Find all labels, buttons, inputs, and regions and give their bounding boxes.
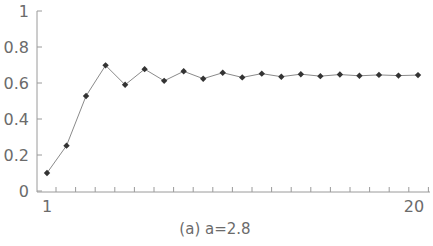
data-point-marker — [317, 73, 323, 79]
data-point-marker — [220, 70, 226, 76]
data-point-marker — [63, 142, 69, 148]
x-tick-label: 1 — [42, 197, 52, 216]
y-tick-label: 0.4 — [4, 110, 29, 129]
y-tick-label: 0.8 — [4, 38, 29, 57]
data-point-marker — [259, 70, 265, 76]
data-point-marker — [239, 74, 245, 80]
data-point-marker — [376, 72, 382, 78]
data-series — [44, 62, 421, 176]
data-point-marker — [161, 78, 167, 84]
y-tick-label: 0.6 — [4, 74, 29, 93]
y-tick-label: 0.2 — [4, 146, 29, 165]
y-tick-label: 1 — [19, 2, 29, 21]
line-chart: 00.20.40.60.81 120 (a) a=2.8 — [0, 0, 433, 246]
chart-caption: (a) a=2.8 — [179, 220, 250, 238]
data-point-marker — [44, 170, 50, 176]
data-point-marker — [356, 73, 362, 79]
data-point-marker — [337, 71, 343, 77]
data-point-marker — [83, 93, 89, 99]
y-tick-label: 0 — [19, 182, 29, 201]
data-point-marker — [180, 68, 186, 74]
data-point-marker — [278, 74, 284, 80]
y-axis: 00.20.40.60.81 — [4, 2, 42, 201]
data-point-marker — [200, 75, 206, 81]
data-point-marker — [415, 72, 421, 78]
x-tick-label: 20 — [404, 197, 424, 216]
data-point-marker — [395, 72, 401, 78]
data-point-marker — [298, 71, 304, 77]
x-axis: 120 — [37, 187, 430, 216]
